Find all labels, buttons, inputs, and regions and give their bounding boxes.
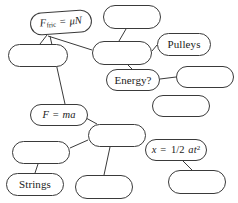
node-empty-center[interactable] <box>92 41 152 65</box>
node-label-strings: Strings <box>19 179 51 190</box>
node-empty-right-upper[interactable] <box>176 66 234 88</box>
connector-kinematics-to-empty-bottom-right <box>183 161 192 170</box>
connector-f-ma-to-empty-mid-center <box>86 118 97 124</box>
node-empty-right-lower[interactable] <box>152 95 210 117</box>
node-label-kinematics: x = 1/2 at2 <box>152 145 201 156</box>
node-pulleys[interactable]: Pulleys <box>157 33 211 56</box>
node-label-pulleys: Pulleys <box>167 39 200 50</box>
node-energy[interactable]: Energy? <box>106 69 160 91</box>
node-label-energy: Energy? <box>114 75 151 86</box>
node-label-f-ma: F = ma <box>42 110 75 121</box>
node-empty-top-center[interactable] <box>103 5 161 29</box>
node-empty-bottom-right[interactable] <box>168 170 226 194</box>
node-f-ma[interactable]: F = ma <box>30 104 88 126</box>
node-empty-mid-center[interactable] <box>88 124 146 147</box>
node-empty-bottom-center[interactable] <box>75 175 133 199</box>
connector-f-fric-to-empty-left-upper <box>40 35 47 44</box>
node-label-f-fric: Ffric = μN <box>40 15 83 29</box>
connector-empty-mid-center-to-empty-left-lower <box>70 140 88 148</box>
node-kinematics[interactable]: x = 1/2 at2 <box>145 139 207 161</box>
node-f-fric[interactable]: Ffric = μN <box>29 9 92 36</box>
concept-map-canvas: Ffric = μNPulleysEnergy?F = max = 1/2 at… <box>0 0 238 203</box>
connector-empty-top-center-to-empty-center <box>119 29 126 41</box>
connector-empty-left-lower-to-strings <box>35 164 38 173</box>
node-strings[interactable]: Strings <box>6 173 64 196</box>
connector-energy-to-empty-right-upper <box>160 77 176 79</box>
node-empty-left-lower[interactable] <box>12 141 70 164</box>
node-empty-left-upper[interactable] <box>8 44 68 67</box>
connector-empty-mid-center-to-empty-bottom-center <box>104 147 110 175</box>
